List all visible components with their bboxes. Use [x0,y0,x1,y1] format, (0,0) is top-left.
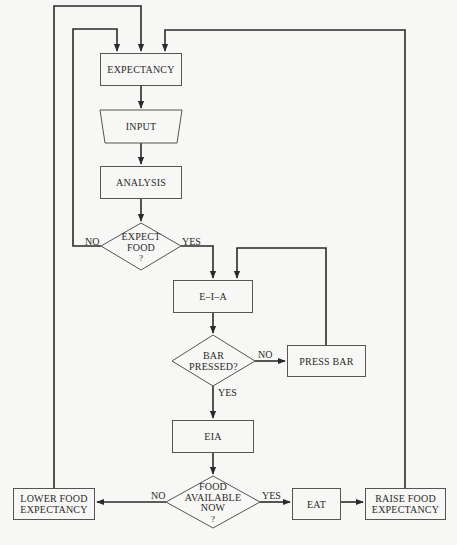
node-eat-label: EAT [307,499,326,510]
lower-food-line2: EXPECTANCY [20,504,87,515]
bar-pressed-line1: BAR [203,350,224,361]
node-food-available: FOOD AVAILABLE NOW ? [166,480,260,526]
node-raise-food-expectancy: RAISE FOOD EXPECTANCY [365,488,446,520]
flowchart-connectors [0,0,457,545]
label-bar-pressed-no: NO [258,349,272,360]
label-bar-pressed-yes: YES [218,387,237,398]
lower-food-line1: LOWER FOOD [20,493,87,504]
node-eia-lower: EIA [172,420,254,453]
food-available-line1: FOOD [199,482,227,493]
node-input-label: INPUT [126,121,156,132]
node-bar-pressed: BAR PRESSED? [172,346,255,376]
node-input: INPUT [100,110,182,143]
node-analysis: ANALYSIS [100,166,182,199]
food-available-line3: NOW [201,503,225,514]
node-press-bar: PRESS BAR [287,345,366,377]
expect-food-line3: ? [139,253,143,264]
label-expect-food-yes: YES [182,236,201,247]
raise-food-line2: EXPECTANCY [372,504,439,515]
label-food-available-no: NO [151,490,165,501]
node-eia-upper: E–I–A [173,280,253,313]
node-analysis-label: ANALYSIS [116,177,166,188]
node-eia-upper-label: E–I–A [199,291,227,302]
raise-food-line1: RAISE FOOD [375,493,436,504]
label-expect-food-no: NO [85,236,99,247]
bar-pressed-line2: PRESSED? [189,361,238,372]
edge-expect-food-yes [181,246,213,278]
label-food-available-yes: YES [262,490,281,501]
node-eat: EAT [292,488,341,520]
expect-food-line2: FOOD [127,242,155,253]
node-expect-food: EXPECT FOOD ? [101,227,181,267]
expect-food-line1: EXPECT [122,231,161,242]
node-lower-food-expectancy: LOWER FOOD EXPECTANCY [13,488,95,520]
node-press-bar-label: PRESS BAR [299,356,353,367]
node-expectancy: EXPECTANCY [100,53,182,86]
food-available-line4: ? [211,514,215,525]
node-expectancy-label: EXPECTANCY [107,64,174,75]
node-eia-lower-label: EIA [204,431,221,442]
